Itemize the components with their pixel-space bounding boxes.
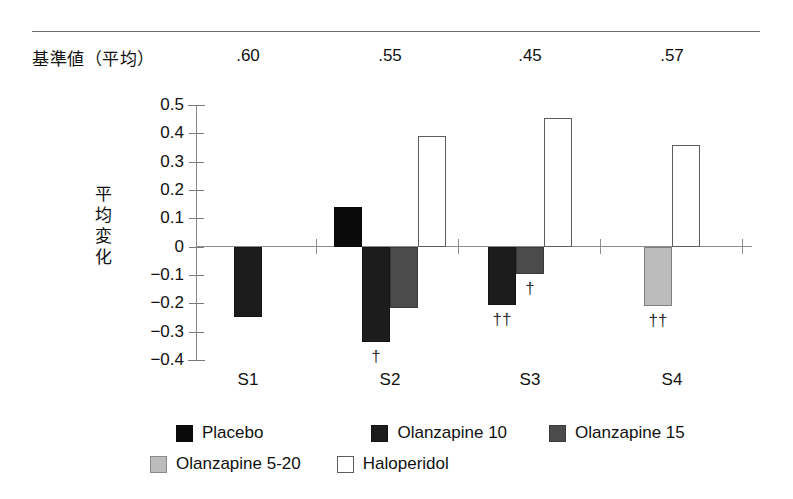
x-axis-label-s1: S1 [218, 370, 278, 390]
legend-item-olanzapine-5-20[interactable]: Olanzapine 5-20 [150, 454, 301, 474]
y-tick-2 [189, 162, 204, 163]
baseline-value-s3: .45 [500, 46, 560, 66]
header-divider [32, 31, 760, 32]
y-tick-6 [189, 275, 204, 276]
y-tick-label-5: 0 [130, 237, 184, 257]
x-axis-label-s3: S3 [500, 370, 560, 390]
x-tick-1 [458, 239, 459, 254]
y-tick-4 [189, 218, 204, 219]
y-tick-label-7: −0.2 [130, 293, 184, 313]
baseline-value-s1: .60 [218, 46, 278, 66]
legend-swatch-icon [150, 456, 167, 473]
significance-marker-s2-olz10: † [356, 348, 396, 365]
bar-s3-olz15 [516, 247, 544, 274]
y-tick-label-6: −0.1 [130, 265, 184, 285]
legend-swatch-icon [371, 425, 388, 442]
y-tick-label-2: 0.3 [130, 152, 184, 172]
plot-area: †††††† [196, 105, 752, 360]
legend-label: Olanzapine 10 [397, 423, 507, 443]
baseline-value-s2: .55 [360, 46, 420, 66]
legend-item-placebo[interactable]: Placebo [176, 423, 263, 443]
y-tick-label-8: −0.3 [130, 322, 184, 342]
y-tick-5 [189, 247, 204, 248]
y-axis-title: 平 均 変 化 [88, 184, 118, 268]
legend-label: Olanzapine 15 [575, 423, 685, 443]
y-tick-label-0: 0.5 [130, 95, 184, 115]
legend-item-olanzapine-15[interactable]: Olanzapine 15 [549, 423, 685, 443]
significance-marker-s4-olz520: †† [638, 312, 678, 329]
bar-s2-placebo [334, 207, 362, 247]
y-axis-title-line-1: 平 [88, 184, 118, 205]
x-axis-label-s2: S2 [360, 370, 420, 390]
bar-s2-olz10 [362, 247, 390, 342]
legend-row-2: Olanzapine 5-20Haloperidol [150, 451, 449, 477]
baseline-value-s4: .57 [642, 46, 702, 66]
baseline-row-label: 基準値（平均） [32, 45, 155, 70]
y-tick-8 [189, 332, 204, 333]
legend-label: Haloperidol [363, 454, 449, 474]
legend-swatch-icon [337, 456, 354, 473]
y-tick-label-1: 0.4 [130, 123, 184, 143]
legend-swatch-icon [176, 425, 193, 442]
x-axis-label-s4: S4 [642, 370, 702, 390]
y-axis-title-line-4: 化 [88, 247, 118, 268]
bar-s4-halo [672, 145, 700, 247]
legend-row-1: PlaceboOlanzapine 10Olanzapine 15 [176, 420, 685, 446]
y-tick-3 [189, 190, 204, 191]
y-tick-label-4: 0.1 [130, 208, 184, 228]
y-axis-line [196, 105, 197, 360]
bar-s3-halo [544, 118, 572, 247]
x-tick-3 [742, 239, 743, 254]
legend-swatch-icon [549, 425, 566, 442]
x-tick-0 [316, 239, 317, 254]
y-axis-title-line-2: 均 [88, 205, 118, 226]
significance-marker-s3-olz15: † [510, 280, 550, 297]
bar-s1-olz10 [234, 247, 262, 318]
y-tick-1 [189, 133, 204, 134]
significance-marker-s3-olz10: †† [482, 311, 522, 328]
y-tick-label-9: −0.4 [130, 350, 184, 370]
legend-label: Olanzapine 5-20 [176, 454, 301, 474]
bar-s4-olz520 [644, 247, 672, 307]
y-tick-7 [189, 303, 204, 304]
legend-item-olanzapine-10[interactable]: Olanzapine 10 [371, 423, 507, 443]
y-tick-0 [188, 105, 205, 106]
y-tick-9 [188, 360, 205, 361]
bar-s2-halo [418, 136, 446, 247]
x-tick-2 [600, 239, 601, 254]
legend-label: Placebo [202, 423, 263, 443]
figure-root: 基準値（平均） .60 .55 .45 .57 平 均 変 化 †††††† 0… [0, 0, 793, 499]
y-axis-title-line-3: 変 [88, 226, 118, 247]
legend-item-haloperidol[interactable]: Haloperidol [337, 454, 449, 474]
bar-s2-olz15 [390, 247, 418, 308]
y-tick-label-3: 0.2 [130, 180, 184, 200]
